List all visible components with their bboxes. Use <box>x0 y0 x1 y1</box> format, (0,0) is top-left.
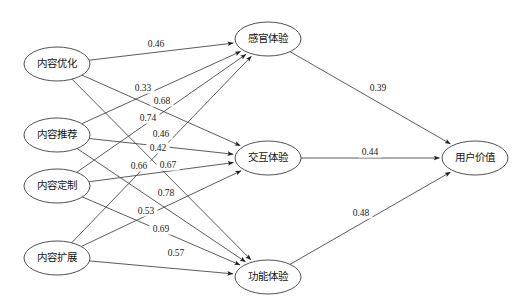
edge-weight-n1-m1: 0.46 <box>145 39 168 50</box>
weight-value: 0.69 <box>153 224 170 234</box>
edge-weight-n3-m2: 0.67 <box>157 160 180 171</box>
weight-value: 0.57 <box>168 248 185 258</box>
node-n1[interactable]: 内容优化 <box>24 47 90 81</box>
edge-weight-n4-m1: 0.42 <box>147 143 170 154</box>
node-m3[interactable]: 功能体验 <box>235 260 301 294</box>
node-o1[interactable]: 用户价值 <box>442 141 508 175</box>
weight-value: 0.46 <box>148 39 165 49</box>
edge-m1-to-o1 <box>290 52 450 144</box>
node-label: 用户价值 <box>455 151 497 163</box>
node-n2[interactable]: 内容推荐 <box>24 118 90 152</box>
edge-weight-n4-m3: 0.57 <box>165 248 188 259</box>
edge-weight-m1-o1: 0.39 <box>367 83 390 94</box>
edge-weight-n2-m2: 0.46 <box>150 129 173 140</box>
edge-weight-n3-m3: 0.78 <box>155 188 178 199</box>
edge-weight-n1-m2: 0.33 <box>132 83 155 94</box>
edge-weight-m2-o1: 0.44 <box>359 147 382 158</box>
weight-value: 0.44 <box>362 147 379 157</box>
edge-n3-to-m1 <box>77 54 246 172</box>
weight-value: 0.39 <box>370 83 387 93</box>
edge-weight-n2-m1: 0.68 <box>151 96 174 107</box>
edge-weight-m3-o1: 0.48 <box>350 208 373 219</box>
path-diagram-canvas: 内容优化内容推荐内容定制内容扩展感官体验交互体验功能体验用户价值 0.460.3… <box>0 0 527 308</box>
node-label: 交互体验 <box>248 151 290 163</box>
weight-value: 0.78 <box>158 188 175 198</box>
weight-value: 0.48 <box>353 208 370 218</box>
node-label: 功能体验 <box>248 270 290 282</box>
edge-n4-to-m2 <box>81 171 241 247</box>
edge-weight-n2-m3: 0.69 <box>150 224 173 235</box>
node-label: 内容推荐 <box>37 128 78 140</box>
edge-weight-n4-m2: 0.66 <box>128 161 151 172</box>
node-label: 感官体验 <box>248 32 290 44</box>
edge-weight-n1-m3: 0.53 <box>135 206 158 217</box>
node-n3[interactable]: 内容定制 <box>24 169 90 203</box>
weight-value: 0.67 <box>160 160 177 170</box>
weight-value: 0.68 <box>154 96 171 106</box>
edge-weight-n3-m1: 0.74 <box>137 113 160 124</box>
node-n4[interactable]: 内容扩展 <box>24 241 90 275</box>
node-label: 内容定制 <box>37 179 78 191</box>
edge-n4-to-m3 <box>90 261 233 274</box>
weight-value: 0.53 <box>138 206 155 216</box>
node-label: 内容扩展 <box>37 251 79 263</box>
weight-value: 0.42 <box>150 143 167 153</box>
weight-value: 0.46 <box>153 129 170 139</box>
node-m1[interactable]: 感官体验 <box>235 22 301 56</box>
node-label: 内容优化 <box>37 57 79 69</box>
weight-value: 0.66 <box>131 161 148 171</box>
node-m2[interactable]: 交互体验 <box>235 141 301 175</box>
weight-value: 0.33 <box>135 83 152 93</box>
weight-value: 0.74 <box>140 113 157 123</box>
structural-equation-diagram: 内容优化内容推荐内容定制内容扩展感官体验交互体验功能体验用户价值 0.460.3… <box>0 0 527 308</box>
